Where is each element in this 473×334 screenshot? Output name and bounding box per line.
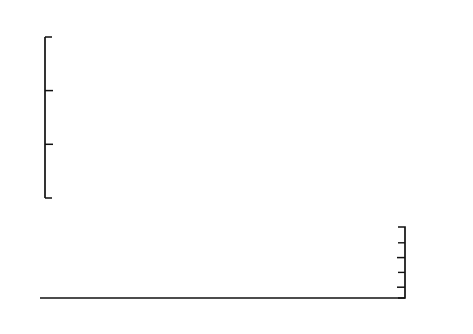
top-y-axis [45, 37, 53, 198]
top-y-axis-spine [45, 37, 52, 198]
bottom-axes [40, 227, 405, 298]
chart-canvas [0, 0, 473, 334]
chart-figure [0, 0, 473, 334]
